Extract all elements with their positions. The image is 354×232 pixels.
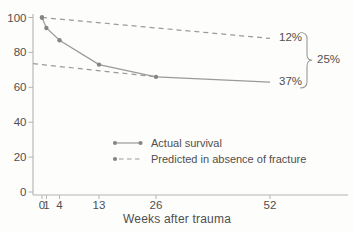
series-line-1: [42, 18, 270, 39]
mortality-difference-label: 25%: [317, 53, 340, 65]
actual-series-swatch-icon: [111, 138, 145, 148]
x-tick-label: 26: [150, 199, 163, 211]
x-tick-label: 1: [43, 199, 49, 211]
series-marker: [97, 62, 101, 66]
y-tick-label: 100: [7, 12, 26, 24]
predicted-mortality-label: 12%: [279, 31, 302, 43]
series-marker: [154, 75, 158, 79]
y-tick-label: 80: [14, 46, 27, 58]
y-tick-label: 40: [14, 116, 27, 128]
series-line-2: [33, 64, 156, 77]
actual-mortality-label: 37%: [279, 75, 302, 87]
legend: Actual survival Predicted in absence of …: [111, 135, 306, 167]
y-tick-label: 20: [14, 151, 27, 163]
y-tick-label: 0: [20, 186, 26, 198]
x-axis-title: Weeks after trauma: [0, 212, 354, 226]
predicted-series-swatch-icon: [111, 154, 145, 164]
x-tick-label: 13: [93, 199, 106, 211]
x-tick-label: 4: [56, 199, 63, 211]
legend-label-actual: Actual survival: [151, 137, 222, 149]
series-marker: [57, 38, 61, 42]
series-marker: [40, 15, 44, 19]
legend-label-predicted: Predicted in absence of fracture: [151, 153, 306, 165]
survival-figure: 020406080100014132652 12% 37% 25% Actual…: [0, 0, 354, 232]
legend-item-actual: Actual survival: [111, 135, 306, 151]
x-tick-label: 52: [264, 199, 277, 211]
series-marker: [44, 26, 48, 30]
legend-item-predicted: Predicted in absence of fracture: [111, 151, 306, 167]
y-tick-label: 60: [14, 81, 27, 93]
series-line-0: [42, 18, 270, 83]
